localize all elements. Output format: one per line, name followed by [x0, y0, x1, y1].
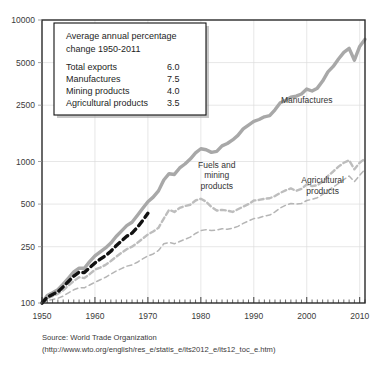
legend-row-value-2: 4.0: [167, 86, 180, 96]
series-annotations: ManufacturesFuels andminingproductsAgric…: [198, 95, 344, 196]
y-axis-tick-label: 250: [21, 242, 35, 252]
series-annotation: mining: [204, 170, 229, 180]
legend-row-value-3: 3.5: [167, 98, 180, 108]
y-axis-tick-label: 10000: [11, 15, 35, 25]
chart-container: 10000500025001000500250100 1950196019701…: [0, 0, 381, 371]
legend-row-label-1: Manufactures: [66, 74, 121, 84]
legend-row-label-0: Total exports: [66, 62, 118, 72]
wto-merchandise-trade-volume-chart: 10000500025001000500250100 1950196019701…: [0, 0, 381, 371]
legend-row-label-3: Agricultural products: [66, 98, 149, 108]
series-annotation: products: [306, 186, 339, 196]
y-axis-labels: 10000500025001000500250100: [11, 15, 35, 308]
series-annotation: Fuels and: [198, 160, 236, 170]
series-annotation: Manufactures: [281, 95, 333, 105]
legend-box: Average annual percentage change 1950-20…: [54, 23, 209, 118]
y-axis-tick-label: 2500: [16, 100, 35, 110]
source-line2: (http://www.wto.org/english/res_e/statis…: [42, 345, 276, 354]
y-axis-tick-label: 1000: [16, 157, 35, 167]
source-line1: Source: World Trade Organization: [42, 333, 157, 342]
x-axis-tick-label: 1970: [138, 311, 157, 321]
legend-title-line2: change 1950-2011: [66, 44, 140, 54]
y-axis-tick-label: 100: [21, 298, 35, 308]
x-axis-tick-label: 1950: [33, 311, 52, 321]
source-note: Source: World Trade Organization (http:/…: [42, 333, 276, 354]
x-axis-tick-label: 1990: [244, 311, 263, 321]
x-axis-ticks: [42, 297, 365, 303]
x-axis-tick-label: 2000: [297, 311, 316, 321]
x-axis-tick-label: 1980: [191, 311, 210, 321]
series-annotation: Agricultural: [301, 175, 344, 185]
legend-row-value-1: 7.5: [167, 74, 180, 84]
legend-title-line1: Average annual percentage: [66, 31, 176, 41]
legend-row-value-0: 6.0: [167, 62, 180, 72]
legend-row-label-2: Mining products: [66, 86, 130, 96]
x-axis-tick-label: 1960: [85, 311, 104, 321]
y-axis-tick-label: 5000: [16, 58, 35, 68]
x-axis-labels: 1950196019701980199020002010: [33, 311, 370, 321]
x-axis-tick-label: 2010: [350, 311, 369, 321]
y-axis-tick-label: 500: [21, 199, 35, 209]
series-annotation: products: [200, 181, 233, 191]
